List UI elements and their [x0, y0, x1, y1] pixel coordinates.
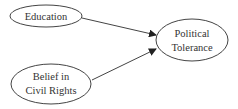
edge-education-to-tolerance — [82, 18, 156, 35]
node-belief-label-line2: Civil Rights — [25, 85, 76, 96]
node-education: Education — [10, 5, 82, 27]
node-tolerance-shape — [156, 19, 228, 61]
node-tolerance-label-line1: Political — [175, 28, 210, 39]
path-diagram: Education Belief in Civil Rights Politic… — [0, 0, 238, 109]
node-belief-label-line1: Belief in — [33, 71, 70, 82]
node-education-label: Education — [25, 11, 68, 22]
edge-belief-to-tolerance — [92, 49, 156, 80]
node-tolerance-label-line2: Tolerance — [171, 42, 213, 53]
node-political-tolerance: Political Tolerance — [156, 19, 228, 61]
node-belief-shape — [11, 64, 91, 104]
node-belief-in-civil-rights: Belief in Civil Rights — [11, 64, 91, 104]
